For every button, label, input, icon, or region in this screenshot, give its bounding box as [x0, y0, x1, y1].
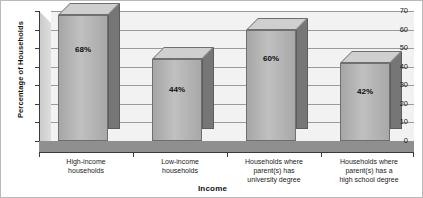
category-label-low-income: Low-income households — [133, 157, 227, 175]
bar-value-label: 60% — [246, 54, 296, 63]
category-label-line: high school degree — [321, 175, 417, 184]
bar-front-face — [340, 63, 390, 141]
bar-value-label: 42% — [340, 87, 390, 96]
y-tick-70 — [35, 11, 39, 12]
bar-front-face — [58, 15, 108, 141]
category-label-line: parent(s) has a — [321, 166, 417, 175]
bar-value-label: 44% — [152, 85, 202, 94]
y-tick-60 — [35, 30, 39, 31]
x-axis-title: Income — [1, 184, 423, 193]
y-tick-10 — [35, 122, 39, 123]
bar-front-face — [246, 30, 296, 141]
bar-side-face — [108, 3, 120, 129]
category-label-line: university degree — [227, 175, 321, 184]
y-tick-20 — [35, 104, 39, 105]
plot-area: 68% 44% 60% 42% 70 60 — [39, 11, 414, 153]
y-axis-title: Percentage of Households — [16, 0, 25, 145]
bar-high-school-degree: 42% — [340, 63, 390, 141]
bar-front-face — [152, 59, 202, 141]
category-label-line: High-income — [39, 157, 133, 166]
y-tick-30 — [35, 85, 39, 86]
bar-university-degree: 60% — [246, 30, 296, 141]
bar-chart: Percentage of Households Income 68% 44% — [0, 0, 423, 198]
y-tick-50 — [35, 48, 39, 49]
bar-side-face — [296, 18, 308, 129]
y-tick-label-0: 0 — [386, 137, 408, 145]
y-tick-label-30: 30 — [386, 81, 408, 89]
category-label-line: Households where — [321, 157, 417, 166]
plot-left-wall — [39, 11, 51, 141]
category-label-high-school-degree: Households where parent(s) has a high sc… — [321, 157, 417, 184]
y-tick-label-10: 10 — [386, 118, 408, 126]
bar-value-label: 68% — [58, 45, 108, 54]
y-tick-0 — [35, 141, 39, 142]
category-label-line: households — [133, 166, 227, 175]
bar-side-face — [202, 47, 214, 129]
bar-low-income: 44% — [152, 59, 202, 141]
category-label-high-income: High-income households — [39, 157, 133, 175]
bar-high-income: 68% — [58, 15, 108, 141]
category-label-line: households — [39, 166, 133, 175]
category-label-university-degree: Households where parent(s) has universit… — [227, 157, 321, 184]
y-tick-label-50: 50 — [386, 44, 408, 52]
y-tick-label-40: 40 — [386, 63, 408, 71]
y-tick-label-20: 20 — [386, 100, 408, 108]
y-tick-label-70: 70 — [386, 7, 408, 15]
category-label-line: parent(s) has — [227, 166, 321, 175]
y-axis-line — [39, 11, 40, 141]
y-tick-40 — [35, 67, 39, 68]
category-label-line: Low-income — [133, 157, 227, 166]
y-tick-label-60: 60 — [386, 26, 408, 34]
category-label-line: Households where — [227, 157, 321, 166]
